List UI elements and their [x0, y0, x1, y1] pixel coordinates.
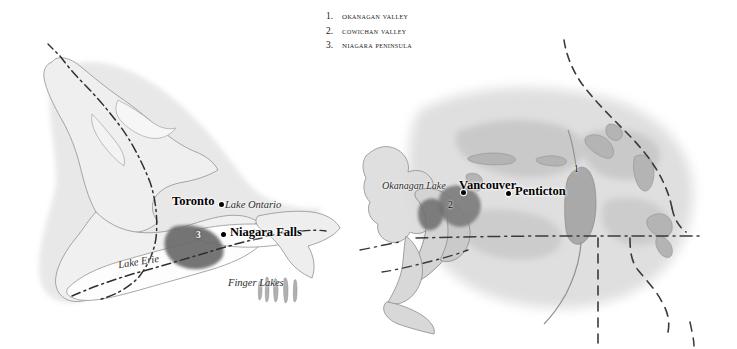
olympic-peninsula: [384, 302, 435, 334]
legend-item-label: Cowichan Valley: [342, 25, 406, 36]
city-label-vancouver: Vancouver: [459, 179, 516, 192]
water-label-finger-lakes: Finger Lakes: [228, 278, 284, 289]
region-marker-2: 2: [448, 201, 453, 211]
map-ontario: Toronto Niagara Falls Lake Ontario Lake …: [0, 30, 345, 330]
border-49th-parallel-west: [360, 242, 400, 250]
legend-item-number: 1.: [326, 11, 342, 21]
region-marker-3: 3: [196, 231, 201, 241]
mainland-coast-south: [388, 236, 423, 304]
map-figure: 1. Okanagan Valley 2. Cowichan Valley 3.…: [0, 0, 737, 349]
border-line-north-tip: [48, 44, 60, 56]
legend-item: 1. Okanagan Valley: [326, 10, 526, 21]
water-label-okanagan-lake: Okanagan Lake: [382, 181, 446, 191]
city-label-niagara-falls: Niagara Falls: [230, 226, 302, 239]
city-dot-penticton: [506, 191, 511, 196]
legend-item: 2. Cowichan Valley: [326, 25, 526, 36]
map-bc: Okanagan Lake Vancouver Penticton 1 2: [360, 40, 737, 349]
city-label-toronto: Toronto: [172, 195, 214, 208]
city-dot-niagara-falls: [221, 232, 226, 237]
city-label-penticton: Penticton: [515, 185, 566, 198]
city-dot-toronto: [219, 202, 224, 207]
legend-item-label: Okanagan Valley: [342, 10, 408, 21]
region-marker-1: 1: [574, 165, 579, 175]
border-dashed-vertical-tail: [690, 322, 694, 346]
water-label-lake-ontario: Lake Ontario: [225, 200, 281, 211]
